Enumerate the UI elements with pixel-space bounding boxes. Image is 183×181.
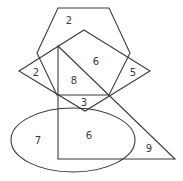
region-label-triangle-right: 9	[146, 143, 152, 154]
region-label-kite-center: 6	[93, 56, 99, 67]
region-label-center-small: 3	[81, 97, 87, 108]
region-label-kite-left: 2	[33, 67, 39, 78]
region-label-kite-right: 5	[130, 67, 136, 78]
region-label-ellipse-left: 7	[35, 135, 41, 146]
region-diagram: 226583769	[0, 0, 183, 181]
region-label-hexagon-top: 2	[66, 15, 72, 26]
region-label-ellipse-triangle: 6	[86, 130, 92, 141]
ellipse-shape	[11, 108, 135, 172]
region-label-triangle-upper: 8	[71, 75, 77, 86]
hexagon-shape	[37, 8, 130, 95]
right-triangle-shape	[58, 46, 175, 159]
